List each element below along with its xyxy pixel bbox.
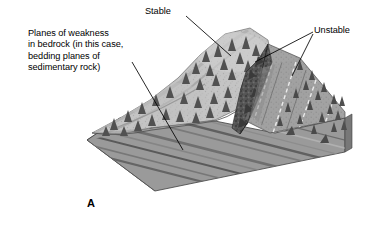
unstable-label: Unstable [314, 25, 350, 36]
block-right-edge-face [345, 114, 352, 152]
panel-letter-a: A [87, 198, 95, 209]
figure-container: Planes of weakness in bedrock (in this c… [0, 0, 379, 229]
planes-of-weakness-note: Planes of weakness in bedrock (in this c… [28, 28, 123, 74]
stable-label: Stable [145, 6, 171, 17]
